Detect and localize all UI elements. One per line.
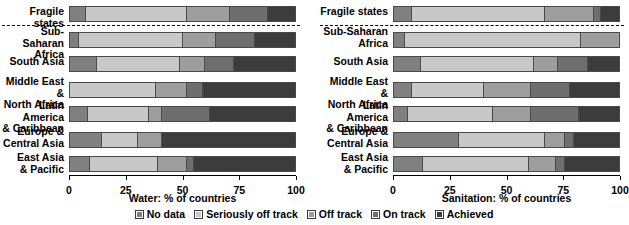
category-label: South Asia (0, 56, 64, 68)
legend-swatch-icon (371, 210, 380, 219)
stacked-bar (393, 32, 620, 48)
stacked-bar (69, 32, 296, 48)
bar-segment (70, 157, 90, 171)
bar-segment (412, 7, 545, 21)
legend-item[interactable]: On track (371, 208, 426, 220)
legend-swatch-icon (307, 210, 316, 219)
bar-segment (423, 157, 529, 171)
bar-segment (180, 57, 205, 71)
legend-label: On track (383, 208, 426, 220)
bar-segment (588, 57, 620, 71)
bar-segment (79, 33, 183, 47)
bar-segment (70, 7, 86, 21)
bar-segment (579, 107, 620, 121)
x-tick-water (239, 176, 240, 180)
fragile-states-separator (320, 25, 624, 26)
bar-segment (183, 33, 217, 47)
stacked-bar (69, 106, 296, 122)
bar-segment (412, 83, 484, 97)
bar-segment (534, 57, 559, 71)
bar-row (393, 32, 620, 48)
bar-segment (558, 57, 587, 71)
panel-sanitation: 0255075100 Fragile statesSub-Saharan Afr… (314, 0, 628, 205)
bar-segment (581, 33, 619, 47)
bar-segment (86, 7, 187, 21)
bar-segment (394, 157, 423, 171)
legend-swatch-icon (435, 210, 444, 219)
chart-legend: No dataSeriously off trackOff trackOn tr… (0, 208, 628, 220)
x-axis-title-sanitation: Sanitation: % of countries (393, 192, 620, 204)
bar-segment (70, 133, 102, 147)
bar-row (69, 56, 296, 72)
bar-segment (158, 157, 187, 171)
stacked-bar (69, 82, 296, 98)
category-label: South Asia (320, 56, 388, 68)
bar-row (69, 156, 296, 172)
x-tick-water (69, 176, 70, 180)
bar-segment (565, 157, 619, 171)
plot-area-water: 0255075100 (69, 2, 296, 176)
x-tick-sanitation (507, 176, 508, 180)
x-tick-sanitation (393, 176, 394, 180)
bar-segment (205, 57, 234, 71)
bar-segment (162, 133, 295, 147)
category-label: Europe & Central Asia (0, 126, 64, 149)
bar-segment (531, 107, 578, 121)
stacked-bar (69, 56, 296, 72)
bar-segment (268, 7, 295, 21)
bar-row (393, 132, 620, 148)
bar-segment (459, 133, 545, 147)
bar-row (69, 32, 296, 48)
bar-segment (216, 33, 254, 47)
bar-segment (149, 107, 163, 121)
bar-segment (570, 83, 620, 97)
bar-row (393, 56, 620, 72)
stacked-bar (393, 132, 620, 148)
bar-segment (194, 157, 295, 171)
bar-segment (230, 7, 268, 21)
bar-segment (394, 33, 405, 47)
stacked-bar (69, 6, 296, 22)
bar-segment (529, 157, 556, 171)
x-tick-water (296, 176, 297, 180)
stacked-bar (393, 6, 620, 22)
bar-row (69, 82, 296, 98)
legend-item[interactable]: Off track (307, 208, 362, 220)
bar-segment (138, 133, 163, 147)
bar-segment (234, 57, 295, 71)
legend-label: Off track (319, 208, 362, 220)
bar-segment (421, 57, 534, 71)
category-label: East Asia & Pacific (320, 152, 388, 175)
bar-row (69, 6, 296, 22)
bar-segment (156, 83, 188, 97)
category-label: East Asia & Pacific (0, 152, 64, 175)
bar-segment (405, 33, 581, 47)
bar-segment (210, 107, 296, 121)
category-label: Europe & Central Asia (320, 126, 388, 149)
x-tick-sanitation (620, 176, 621, 180)
stacked-bar (393, 56, 620, 72)
legend-label: Seriously off track (206, 208, 298, 220)
category-label: Sub-Saharan Africa (320, 26, 388, 49)
bar-segment (70, 57, 97, 71)
bar-segment (70, 107, 88, 121)
bar-segment (88, 107, 149, 121)
bar-segment (545, 7, 595, 21)
legend-swatch-icon (194, 210, 203, 219)
bar-segment (394, 83, 412, 97)
bar-segment (162, 107, 209, 121)
x-tick-sanitation (563, 176, 564, 180)
fragile-states-separator (2, 25, 300, 26)
legend-swatch-icon (135, 210, 144, 219)
legend-item[interactable]: No data (135, 208, 186, 220)
legend-item[interactable]: Seriously off track (194, 208, 298, 220)
legend-item[interactable]: Achieved (435, 208, 494, 220)
bar-row (393, 82, 620, 98)
bar-row (69, 132, 296, 148)
bar-segment (394, 133, 459, 147)
bar-segment (531, 83, 569, 97)
stacked-bar (69, 132, 296, 148)
bar-row (393, 106, 620, 122)
bar-segment (565, 133, 574, 147)
bar-segment (394, 7, 412, 21)
